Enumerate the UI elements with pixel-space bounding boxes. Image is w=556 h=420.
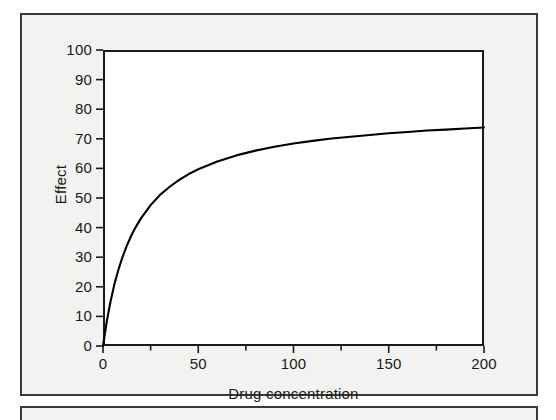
y-tick-label-100: 100 [54, 41, 92, 58]
y-tick-label-40: 40 [54, 219, 92, 236]
x-tick-label-50: 50 [171, 355, 225, 372]
x-tick-label-150: 150 [362, 355, 416, 372]
x-axis-title: Drug concentration [103, 385, 484, 402]
x-tick-label-100: 100 [267, 355, 321, 372]
y-tick-label-20: 20 [54, 278, 92, 295]
x-tick-label-200: 200 [457, 355, 511, 372]
y-axis-title: Effect [52, 155, 69, 215]
next-figure-panel [20, 406, 538, 420]
plot-frame [103, 50, 484, 346]
y-tick-label-10: 10 [54, 307, 92, 324]
y-tick-label-0: 0 [54, 337, 92, 354]
x-tick-label-0: 0 [76, 355, 130, 372]
y-tick-label-30: 30 [54, 248, 92, 265]
y-tick-label-70: 70 [54, 130, 92, 147]
y-tick-label-90: 90 [54, 71, 92, 88]
y-tick-label-80: 80 [54, 100, 92, 117]
